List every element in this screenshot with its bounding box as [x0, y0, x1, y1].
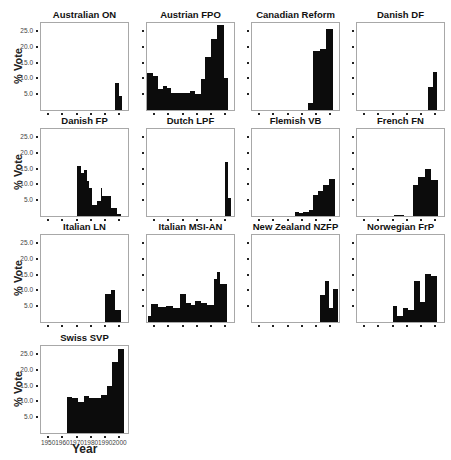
x-tick	[167, 325, 169, 327]
y-tick-label: 25.0	[11, 27, 33, 34]
data-bar	[173, 308, 180, 322]
y-tick	[142, 152, 144, 154]
data-bar	[118, 349, 124, 433]
data-bar	[326, 29, 333, 110]
y-tick	[36, 353, 38, 355]
chart-panel	[146, 128, 235, 217]
y-tick	[352, 242, 354, 244]
panel-title: Italian LN	[30, 221, 140, 232]
chart-panel	[356, 22, 445, 111]
x-tick	[153, 325, 155, 327]
chart-panel	[146, 22, 235, 111]
y-tick	[36, 258, 38, 260]
x-tick	[118, 325, 120, 327]
x-tick	[76, 436, 78, 438]
x-tick	[224, 325, 226, 327]
data-bar	[418, 177, 425, 216]
y-tick	[142, 46, 144, 48]
x-tick	[258, 325, 260, 327]
x-tick	[420, 325, 422, 327]
panel-title: Australian ON	[30, 9, 140, 20]
panel-title: Flemish VB	[241, 115, 351, 126]
x-tick	[104, 325, 106, 327]
x-tick-label: 2000	[109, 439, 129, 446]
chart-panel	[40, 345, 129, 434]
y-axis-label: % Vote	[12, 364, 24, 414]
y-tick-label: 5.0	[11, 90, 33, 97]
x-tick	[406, 325, 408, 327]
y-tick	[142, 62, 144, 64]
x-tick	[76, 325, 78, 327]
y-tick	[247, 199, 249, 201]
y-tick	[36, 369, 38, 371]
y-tick	[36, 183, 38, 185]
y-tick	[142, 305, 144, 307]
x-tick	[210, 325, 212, 327]
x-tick	[61, 436, 63, 438]
y-tick	[352, 305, 354, 307]
y-tick	[142, 199, 144, 201]
y-tick	[247, 152, 249, 154]
data-bar	[431, 180, 438, 216]
data-bar	[220, 284, 227, 322]
y-tick	[36, 46, 38, 48]
y-tick-label: 25.0	[11, 133, 33, 140]
y-tick	[352, 136, 354, 138]
y-tick	[247, 305, 249, 307]
x-tick	[392, 325, 394, 327]
chart-panel	[251, 234, 340, 323]
y-tick-label: 5.0	[11, 302, 33, 309]
y-tick	[247, 30, 249, 32]
x-tick	[118, 436, 120, 438]
x-tick	[301, 325, 303, 327]
y-axis-label: % Vote	[12, 147, 24, 197]
panel-title: Italian MSI-AN	[136, 221, 246, 232]
y-tick	[142, 30, 144, 32]
y-tick	[36, 136, 38, 138]
y-tick	[36, 93, 38, 95]
data-bar	[115, 310, 121, 322]
panel-title: Dutch LPF	[136, 115, 246, 126]
y-tick-label: 25.0	[11, 350, 33, 357]
y-tick	[247, 242, 249, 244]
chart-panel	[146, 234, 235, 323]
x-tick	[329, 325, 331, 327]
y-tick	[36, 199, 38, 201]
x-tick	[47, 325, 49, 327]
y-tick	[142, 183, 144, 185]
x-tick	[315, 325, 317, 327]
data-bar	[119, 96, 122, 110]
chart-panel	[356, 234, 445, 323]
chart-panel	[251, 128, 340, 217]
data-bar	[117, 214, 121, 216]
y-tick	[352, 62, 354, 64]
panel-title: Danish FP	[30, 115, 140, 126]
y-tick	[36, 77, 38, 79]
panel-title: Canadian Reform	[241, 9, 351, 20]
y-tick	[247, 77, 249, 79]
y-tick	[36, 242, 38, 244]
y-tick	[247, 93, 249, 95]
y-tick	[142, 242, 144, 244]
data-bar	[313, 51, 320, 110]
y-tick	[247, 289, 249, 291]
y-tick	[142, 168, 144, 170]
y-tick	[352, 77, 354, 79]
data-bar	[329, 179, 335, 216]
y-tick	[352, 199, 354, 201]
x-tick	[287, 325, 289, 327]
data-bar	[431, 276, 437, 322]
y-tick-label: 5.0	[11, 413, 33, 420]
y-tick	[352, 152, 354, 154]
x-tick	[182, 325, 184, 327]
data-bar	[228, 198, 231, 216]
y-tick-label: 5.0	[11, 196, 33, 203]
y-tick	[36, 289, 38, 291]
data-bar	[166, 306, 173, 322]
panel-title: New Zealand NZFP	[241, 221, 351, 232]
y-tick	[247, 274, 249, 276]
y-tick	[142, 77, 144, 79]
y-tick	[36, 62, 38, 64]
panel-title: Norwegian FrP	[346, 221, 451, 232]
chart-panel	[251, 22, 340, 111]
